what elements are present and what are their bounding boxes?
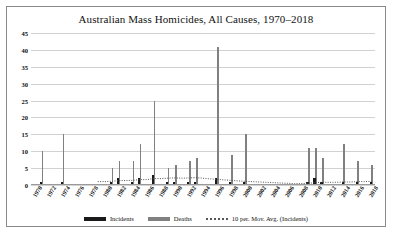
x-axis-tick-label: 1982 — [115, 185, 126, 198]
chart-title: Australian Mass Homicides, All Causes, 1… — [7, 13, 385, 25]
moving-average-line — [31, 33, 375, 185]
y-axis-tick-label: 10 — [22, 148, 29, 155]
x-axis-tick-label: 2010 — [312, 185, 323, 198]
y-axis-tick-label: 20 — [22, 114, 29, 121]
legend-item-deaths: Deaths — [148, 215, 192, 222]
x-axis-tick-label: 2000 — [242, 185, 253, 198]
legend-label-moving-average: 10 per. Mov. Avg. (Incidents) — [232, 215, 308, 222]
chart-legend: Incidents Deaths 10 per. Mov. Avg. (Inci… — [7, 215, 385, 222]
x-axis-tick-label: 2006 — [284, 185, 295, 198]
legend-item-incidents: Incidents — [84, 215, 134, 222]
legend-label-deaths: Deaths — [174, 215, 192, 222]
x-axis-tick-label: 2016 — [354, 185, 365, 198]
legend-label-incidents: Incidents — [110, 215, 134, 222]
y-axis-tick-label: 35 — [22, 63, 29, 70]
legend-swatch-deaths — [148, 217, 170, 221]
x-axis-tick-label: 1994 — [200, 185, 211, 198]
x-axis-tick-label: 1998 — [228, 185, 239, 198]
x-axis-tick-label: 1988 — [158, 185, 169, 198]
x-axis-tick-label: 1986 — [143, 185, 154, 198]
x-axis-tick-label: 1990 — [172, 185, 183, 198]
x-axis-tick-label: 2014 — [340, 185, 351, 198]
y-axis-tick-label: 40 — [22, 46, 29, 53]
plot-area: 051015202530354045 — [31, 33, 375, 185]
x-axis-tick-label: 1978 — [87, 185, 98, 198]
legend-item-moving-average: 10 per. Mov. Avg. (Incidents) — [206, 215, 308, 222]
x-axis-tick-label: 1976 — [73, 185, 84, 198]
y-axis-tick-label: 15 — [22, 131, 29, 138]
x-axis-tick-label: 2018 — [368, 185, 379, 198]
x-axis-tick-label: 2008 — [298, 185, 309, 198]
y-axis-tick-label: 25 — [22, 97, 29, 104]
x-axis-tick-label: 1972 — [45, 185, 56, 198]
moving-average-path — [98, 178, 372, 184]
x-axis-tick-label: 2012 — [326, 185, 337, 198]
x-axis-tick-label: 2004 — [270, 185, 281, 198]
y-axis-tick-label: 0 — [25, 182, 28, 189]
y-axis-tick-label: 30 — [22, 80, 29, 87]
y-axis-tick-label: 45 — [22, 30, 29, 37]
x-axis-labels: 1970197219741976197819801982198419861988… — [31, 185, 375, 213]
x-axis-tick-label: 1970 — [31, 185, 42, 198]
x-axis-tick-label: 1980 — [101, 185, 112, 198]
x-axis-tick-label: 1996 — [214, 185, 225, 198]
legend-swatch-moving-average — [206, 218, 228, 220]
x-axis-tick-label: 2002 — [256, 185, 267, 198]
x-axis-tick-label: 1974 — [59, 185, 70, 198]
y-axis-tick-label: 5 — [25, 165, 28, 172]
x-axis-tick-label: 1992 — [186, 185, 197, 198]
x-axis-tick-label: 1984 — [129, 185, 140, 198]
legend-swatch-incidents — [84, 217, 106, 221]
chart-frame: Australian Mass Homicides, All Causes, 1… — [6, 6, 386, 227]
